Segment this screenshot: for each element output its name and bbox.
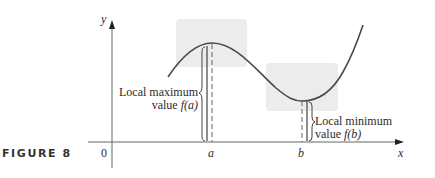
local-max-func: f(a) [181,98,198,112]
x-axis-label: x [398,147,403,160]
local-max-line2: value f(a) [118,99,198,112]
y-axis-arrow-icon [109,20,115,29]
figure-local-extrema: y x 0 a b Local maximum value f(a) Local… [0,0,435,178]
x-axis-arrow-icon [395,139,404,145]
local-min-func: f(b) [344,127,361,141]
local-min-label: Local minimum value f(b) [315,115,392,141]
local-max-label: Local maximum value f(a) [118,86,198,112]
figure-caption: FIGURE 8 [2,147,72,160]
local-min-line2: value f(b) [315,128,392,141]
local-min-value-word: value [315,127,344,141]
y-axis-label: y [101,13,106,26]
origin-label: 0 [101,147,107,160]
local-max-value-word: value [152,98,181,112]
tick-label-a: a [208,147,214,160]
tick-label-b: b [298,147,304,160]
